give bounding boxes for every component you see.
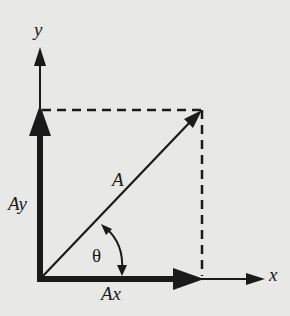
x-axis-label: x	[268, 264, 278, 285]
angle-arc-arrowhead-bottom-icon	[117, 265, 127, 276]
vector-components-diagram: y x A Ay Ax θ	[0, 0, 290, 316]
vector-a-label: A	[110, 169, 124, 190]
y-axis-label: y	[32, 19, 43, 40]
ax-arrowhead-icon	[173, 268, 204, 290]
ay-component-vector	[29, 105, 51, 281]
angle-arc	[101, 224, 127, 276]
diagram-svg: y x A Ay Ax θ	[0, 0, 290, 316]
ay-label: Ay	[6, 193, 28, 214]
y-axis-arrowhead-icon	[34, 47, 46, 66]
ax-label: Ax	[99, 283, 122, 304]
theta-label: θ	[92, 245, 101, 266]
x-axis-arrowhead-icon	[246, 273, 265, 285]
